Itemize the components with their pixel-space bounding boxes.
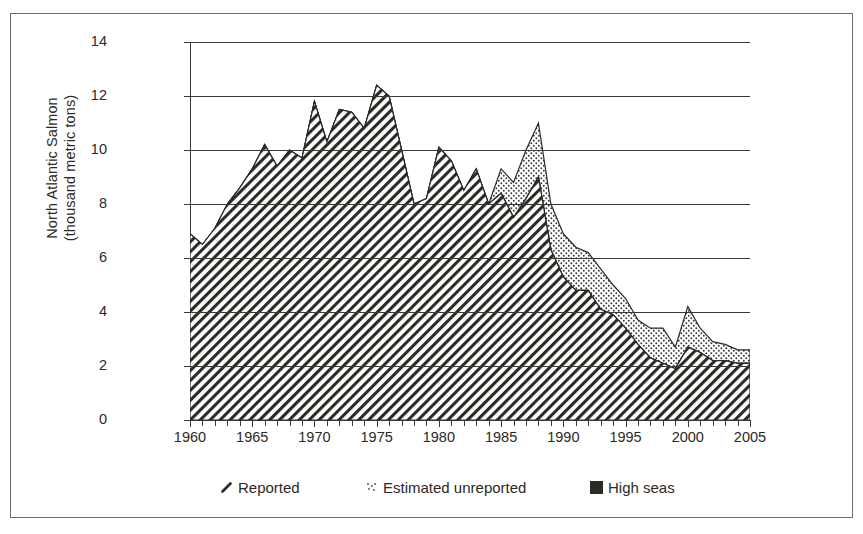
- x-tick-mark-major: [501, 421, 502, 427]
- x-tick-mark-minor: [414, 421, 415, 426]
- x-tick-mark-minor: [514, 421, 515, 426]
- x-tick-mark-minor: [526, 421, 527, 426]
- x-tick-mark-minor: [663, 421, 664, 426]
- x-tick-mark-major: [439, 421, 440, 427]
- x-tick-mark-major: [377, 421, 378, 427]
- x-tick-mark-major: [750, 421, 751, 427]
- gridline: [190, 258, 750, 259]
- y-tick-label: 8: [47, 195, 107, 211]
- x-tick-mark-minor: [227, 421, 228, 426]
- x-tick-label: 1975: [347, 429, 407, 445]
- x-tick-mark-minor: [302, 421, 303, 426]
- x-tick-mark-minor: [601, 421, 602, 426]
- x-tick-mark-minor: [638, 421, 639, 426]
- x-tick-label: 2005: [720, 429, 780, 445]
- x-tick-mark-minor: [339, 421, 340, 426]
- x-tick-mark-minor: [713, 421, 714, 426]
- hatch-swatch-icon: [220, 481, 233, 494]
- x-tick-label: 1995: [596, 429, 656, 445]
- gridline: [190, 96, 750, 97]
- x-tick-mark-minor: [364, 421, 365, 426]
- plot-area: [190, 42, 750, 420]
- x-tick-mark-minor: [215, 421, 216, 426]
- series-layer: [190, 42, 750, 420]
- gridline: [190, 42, 750, 43]
- legend-item[interactable]: Estimated unreported: [365, 479, 526, 496]
- dots-swatch-icon: [365, 481, 378, 494]
- gridline: [190, 150, 750, 151]
- chart-figure: North Atlantic Salmon (thousand metric t…: [0, 0, 863, 534]
- x-tick-label: 1990: [533, 429, 593, 445]
- x-tick-mark-major: [190, 421, 191, 427]
- legend-item[interactable]: High seas: [590, 479, 675, 496]
- x-tick-label: 1985: [471, 429, 531, 445]
- x-tick-mark-minor: [613, 421, 614, 426]
- x-tick-mark-minor: [240, 421, 241, 426]
- x-tick-mark-minor: [277, 421, 278, 426]
- legend-label: High seas: [608, 479, 675, 496]
- x-tick-mark-major: [563, 421, 564, 427]
- x-tick-mark-minor: [352, 421, 353, 426]
- x-tick-label: 2000: [658, 429, 718, 445]
- legend-label: Estimated unreported: [383, 479, 526, 496]
- x-tick-mark-minor: [538, 421, 539, 426]
- x-tick-label: 1970: [284, 429, 344, 445]
- y-tick-label: 2: [47, 357, 107, 373]
- legend-item[interactable]: Reported: [220, 479, 300, 496]
- y-tick-label: 4: [47, 303, 107, 319]
- series-area-reported: [190, 85, 750, 420]
- x-tick-mark-major: [314, 421, 315, 427]
- x-tick-mark-minor: [327, 421, 328, 426]
- x-tick-mark-minor: [402, 421, 403, 426]
- gridline: [190, 366, 750, 367]
- x-tick-mark-minor: [588, 421, 589, 426]
- y-tick-label: 10: [47, 141, 107, 157]
- x-tick-mark-minor: [202, 421, 203, 426]
- solid-swatch-icon: [590, 481, 603, 494]
- x-tick-mark-minor: [464, 421, 465, 426]
- x-tick-label: 1965: [222, 429, 282, 445]
- x-tick-mark-minor: [700, 421, 701, 426]
- y-tick-label: 6: [47, 249, 107, 265]
- x-tick-mark-major: [626, 421, 627, 427]
- x-tick-mark-major: [688, 421, 689, 427]
- y-tick-label: 12: [47, 87, 107, 103]
- gridline: [190, 312, 750, 313]
- x-tick-mark-minor: [725, 421, 726, 426]
- x-tick-label: 1980: [409, 429, 469, 445]
- x-tick-mark-minor: [489, 421, 490, 426]
- x-tick-mark-minor: [426, 421, 427, 426]
- x-tick-mark-minor: [476, 421, 477, 426]
- x-tick-label: 1960: [160, 429, 220, 445]
- x-tick-mark-minor: [290, 421, 291, 426]
- y-tick-label: 14: [47, 33, 107, 49]
- x-tick-mark-minor: [551, 421, 552, 426]
- y-tick-label: 0: [47, 411, 107, 427]
- x-tick-mark-minor: [265, 421, 266, 426]
- x-tick-mark-minor: [389, 421, 390, 426]
- x-tick-mark-minor: [451, 421, 452, 426]
- x-tick-mark-minor: [738, 421, 739, 426]
- x-tick-mark-minor: [576, 421, 577, 426]
- x-axis-line: [190, 420, 751, 421]
- chart-legend: ReportedEstimated unreportedHigh seas: [190, 474, 750, 500]
- x-tick-mark-minor: [650, 421, 651, 426]
- x-tick-mark-major: [252, 421, 253, 427]
- gridline: [190, 204, 750, 205]
- legend-label: Reported: [238, 479, 300, 496]
- x-tick-mark-minor: [675, 421, 676, 426]
